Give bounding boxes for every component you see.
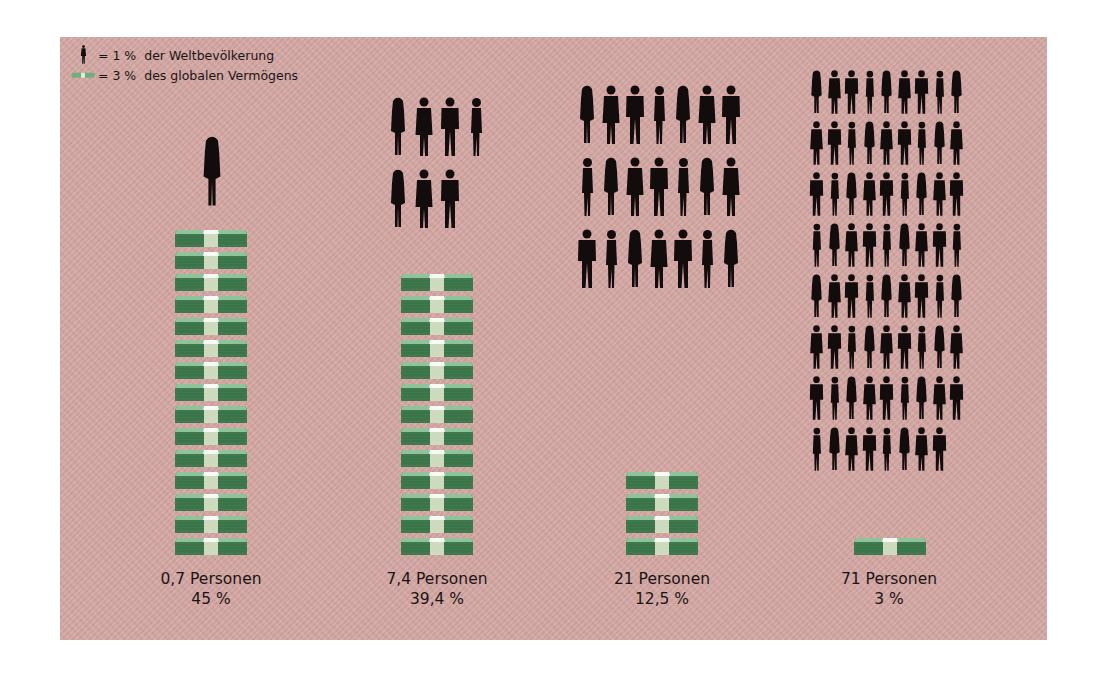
person-icon: [809, 274, 824, 320]
person-icon: [879, 376, 894, 422]
person-icon: [932, 121, 947, 167]
person-icon: [649, 157, 669, 219]
person-icon: [844, 376, 859, 422]
person-icon: [844, 274, 859, 320]
person-icon: [862, 223, 877, 269]
persons-label: 7,4 Personen: [337, 569, 537, 589]
person-icon: [879, 325, 894, 371]
person-icon: [879, 70, 894, 116]
person-icon: [625, 229, 645, 291]
person-icon: [862, 172, 877, 218]
money-bundle-icon: [399, 271, 475, 293]
person-icon: [914, 274, 929, 320]
person-icon: [879, 427, 894, 473]
money-bundle-icon: [173, 469, 249, 491]
money-bundle-icon: [173, 315, 249, 337]
money-bundle-icon: [399, 337, 475, 359]
person-icon: [649, 85, 669, 147]
person-icon: [625, 157, 645, 219]
money-bundle-icon: [173, 513, 249, 535]
person-icon: [932, 427, 947, 473]
person-icon: [932, 172, 947, 218]
person-icon: [949, 121, 964, 167]
person-icon: [827, 223, 842, 269]
money-stack-2: [399, 271, 475, 557]
person-icon: [673, 85, 693, 147]
person-icon: [844, 70, 859, 116]
person-icon: [932, 325, 947, 371]
money-stack-4: [852, 535, 928, 557]
legend-person-text: = 1 % der Weltbevölkerung: [98, 48, 274, 63]
person-icon: [844, 121, 859, 167]
money-bundle-icon: [173, 227, 249, 249]
person-icon: [914, 70, 929, 116]
person-icon: [862, 70, 877, 116]
share-label: 45 %: [111, 589, 311, 609]
legend-person-row: = 1 % der Weltbevölkerung: [70, 45, 298, 65]
money-bundle-icon: [173, 491, 249, 513]
money-bundle-icon: [399, 535, 475, 557]
person-icon: [721, 229, 741, 291]
person-icon: [844, 223, 859, 269]
person-icon: [827, 376, 842, 422]
column-3-label: 21 Personen 12,5 %: [562, 569, 762, 609]
money-bundle-icon: [399, 469, 475, 491]
person-icon: [697, 229, 717, 291]
person-icon: [897, 121, 912, 167]
person-icon: [827, 70, 842, 116]
person-icon: [862, 274, 877, 320]
money-bundle-icon: [399, 315, 475, 337]
person-icon: [601, 157, 621, 219]
person-icon: [673, 229, 693, 291]
person-icon: [914, 223, 929, 269]
money-stack-3: [624, 469, 700, 557]
infographic-panel: = 1 % der Weltbevölkerung = 3 % des glob…: [60, 37, 1047, 640]
money-bundle-icon: [399, 381, 475, 403]
person-icon: [862, 325, 877, 371]
person-icon: [862, 427, 877, 473]
person-icon: [879, 274, 894, 320]
money-bundle-icon: [173, 425, 249, 447]
person-icon: [809, 223, 824, 269]
person-icon: [862, 121, 877, 167]
people-group-4: [809, 70, 964, 473]
person-icon: [862, 376, 877, 422]
money-bundle-icon: [173, 447, 249, 469]
person-icon: [844, 427, 859, 473]
person-icon: [949, 325, 964, 371]
money-bundle-icon: [399, 491, 475, 513]
share-label: 39,4 %: [337, 589, 537, 609]
person-icon: [649, 229, 669, 291]
money-bundle-icon: [173, 293, 249, 315]
person-icon: [897, 223, 912, 269]
person-icon: [914, 121, 929, 167]
person-icon: [577, 229, 597, 291]
person-icon: [914, 172, 929, 218]
person-icon: [601, 85, 621, 147]
person-icon: [914, 325, 929, 371]
person-icon: [827, 121, 842, 167]
share-label: 12,5 %: [562, 589, 762, 609]
money-bundle-icon: [173, 249, 249, 271]
column-4-label: 71 Personen 3 %: [789, 569, 989, 609]
person-icon: [809, 172, 824, 218]
person-icon: [809, 376, 824, 422]
person-icon: [70, 45, 96, 65]
person-icon: [827, 172, 842, 218]
person-icon: [577, 157, 597, 219]
persons-label: 21 Personen: [562, 569, 762, 589]
person-icon: [827, 274, 842, 320]
person-icon: [440, 169, 460, 231]
money-bundle-icon: [70, 70, 96, 80]
money-bundle-icon: [173, 381, 249, 403]
money-bundle-icon: [173, 337, 249, 359]
person-icon: [721, 157, 741, 219]
money-bundle-icon: [624, 491, 700, 513]
person-icon: [932, 274, 947, 320]
person-icon: [897, 325, 912, 371]
person-icon: [440, 97, 460, 159]
people-group-1: [200, 135, 224, 211]
person-icon: [697, 157, 717, 219]
legend-money-row: = 3 % des globalen Vermögens: [70, 65, 298, 85]
person-icon: [601, 229, 621, 291]
